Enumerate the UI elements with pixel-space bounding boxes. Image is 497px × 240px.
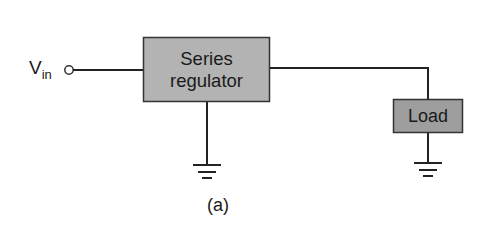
input-terminal-icon [65, 66, 73, 74]
load-label: Load [393, 99, 463, 133]
input-voltage-label: Vin [29, 58, 52, 85]
ground-icon [414, 163, 442, 176]
regulator-label-line-1: Series [180, 48, 232, 70]
output-wire [270, 68, 428, 99]
figure-caption: (a) [207, 195, 229, 216]
regulator-label-line-2: regulator [170, 70, 243, 92]
series-regulator-label: Series regulator [143, 37, 270, 102]
ground-icon [193, 165, 221, 178]
